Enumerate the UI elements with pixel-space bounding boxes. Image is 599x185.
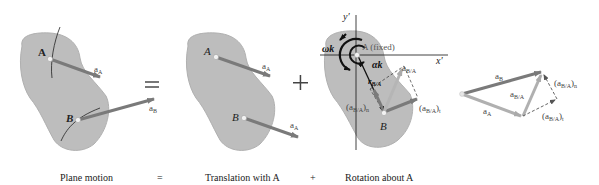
label-aBA-t: (aB/A)t bbox=[542, 111, 564, 122]
label-y-axis: y′ bbox=[342, 11, 350, 22]
rotation-panel: y′ x′ ωk αk A (fixed) rB/A B aB/A (aB/A)… bbox=[320, 11, 448, 150]
label-aBA-n: (aB/A)n bbox=[554, 78, 577, 89]
plus-sign bbox=[293, 75, 308, 90]
rigid-body-shape bbox=[186, 33, 274, 151]
point-B bbox=[75, 117, 80, 122]
caption-plane-motion: Plane motion bbox=[60, 172, 113, 183]
translation-panel: A B aA aA bbox=[186, 33, 299, 151]
label-B: B bbox=[380, 120, 387, 132]
label-aA: aA bbox=[483, 106, 492, 117]
label-aBA: aB/A bbox=[510, 89, 525, 100]
polygon-origin bbox=[460, 92, 465, 97]
label-omega-k: ωk bbox=[322, 43, 334, 54]
label-B: B bbox=[65, 112, 73, 124]
label-aA: aA bbox=[94, 64, 103, 75]
point-B bbox=[381, 110, 386, 115]
point-B bbox=[241, 115, 246, 120]
label-A: A bbox=[38, 46, 46, 58]
label-aA-2: aA bbox=[290, 120, 299, 131]
plane-motion-panel: A B aA aB bbox=[20, 27, 157, 150]
label-x-axis: x′ bbox=[435, 55, 443, 66]
label-aA-1: aA bbox=[262, 61, 271, 72]
equals-sign bbox=[145, 81, 159, 88]
label-alpha-k: αk bbox=[372, 59, 383, 70]
caption-plus: + bbox=[310, 172, 316, 183]
label-aB: aB bbox=[495, 71, 503, 82]
vector-polygon-panel: aB aA aB/A (aB/A)n (aB/A)t bbox=[460, 71, 577, 122]
label-aBA-t: (aB/A)t bbox=[419, 103, 441, 114]
point-A bbox=[213, 54, 218, 59]
rigid-body-shape bbox=[20, 33, 108, 151]
label-A-fixed: A (fixed) bbox=[362, 42, 395, 52]
label-aB: aB bbox=[149, 103, 157, 114]
point-A bbox=[354, 52, 359, 57]
caption-rotation: Rotation about A bbox=[345, 172, 413, 183]
label-aBA: aB/A bbox=[402, 63, 417, 74]
caption-translation: Translation with A bbox=[205, 172, 280, 183]
label-A: A bbox=[203, 45, 211, 57]
caption-equals: = bbox=[157, 172, 163, 183]
vector-aBA bbox=[523, 75, 541, 116]
point-A bbox=[47, 56, 52, 61]
label-B: B bbox=[232, 111, 239, 123]
kinematics-diagram: A B aA aB A B aA aA y′ x′ ωk bbox=[0, 0, 599, 185]
